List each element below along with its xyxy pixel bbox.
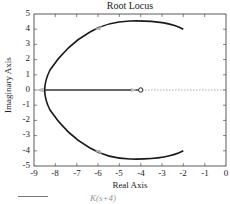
locus-upper-branch bbox=[45, 21, 184, 90]
arrow-left-icon bbox=[36, 88, 44, 93]
locus-lower-branch bbox=[45, 90, 184, 159]
transfer-function-fraction-bar bbox=[18, 196, 48, 197]
plot-area bbox=[0, 0, 230, 204]
arrow-real-icon bbox=[131, 88, 137, 92]
transfer-function-numerator: K(s+4) bbox=[90, 193, 116, 203]
zero-marker-icon bbox=[139, 88, 143, 92]
